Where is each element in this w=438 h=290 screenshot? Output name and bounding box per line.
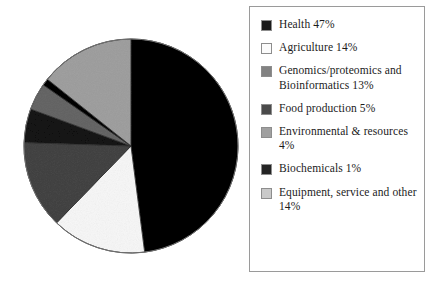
pie-slices-group [24,39,238,253]
legend-swatch-icon [261,188,272,199]
legend-item[interactable]: Environmental & resources 4% [261,124,420,152]
legend-item-label: Biochemicals 1% [279,161,361,175]
legend-swatch-icon [261,104,272,115]
legend-item-label: Health 47% [279,17,335,31]
legend-swatch-icon [261,164,272,175]
legend-swatch-icon [261,66,272,77]
legend-item-label: Food production 5% [279,101,375,115]
legend-box: Health 47%Agriculture 14%Genomics/proteo… [249,6,425,272]
pie-slice[interactable] [131,39,238,252]
legend-item[interactable]: Health 47% [261,17,420,31]
legend-swatch-icon [261,127,272,138]
legend-item[interactable]: Biochemicals 1% [261,161,420,175]
legend-item-label: Equipment, service and other 14% [279,185,420,213]
legend-item[interactable]: Food production 5% [261,101,420,115]
pie-chart-svg [23,38,239,254]
legend-item-label: Environmental & resources 4% [279,124,420,152]
legend-item[interactable]: Genomics/proteomics and Bioinformatics 1… [261,63,420,91]
pie-chart-screenshot: Health 47%Agriculture 14%Genomics/proteo… [0,0,438,290]
legend-item-label: Agriculture 14% [279,40,357,54]
legend-item-label: Genomics/proteomics and Bioinformatics 1… [279,63,420,91]
legend-swatch-icon [261,43,272,54]
pie-chart-figure [23,38,239,254]
legend-swatch-icon [261,20,272,31]
legend-item[interactable]: Equipment, service and other 14% [261,185,420,213]
legend-item[interactable]: Agriculture 14% [261,40,420,54]
legend-list: Health 47%Agriculture 14%Genomics/proteo… [261,17,420,222]
